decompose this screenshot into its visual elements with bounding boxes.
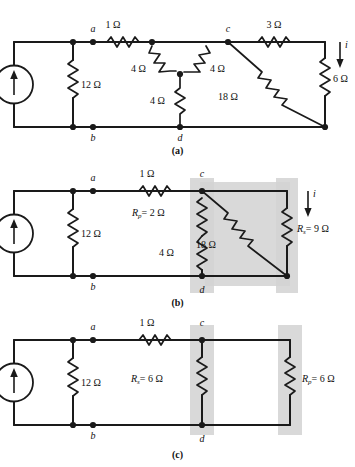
current-arrow-b-head — [304, 208, 311, 217]
resistor-a-4ohm-left — [149, 46, 176, 72]
node-dot-c-c — [199, 337, 205, 343]
node-dot-c-a — [90, 337, 96, 343]
junction-a-top-left — [70, 39, 76, 45]
label-b-1ohm: 1 Ω — [140, 168, 155, 179]
label-a-4ohm-right: 4 Ω — [210, 63, 225, 74]
current-label-b: i — [313, 188, 316, 199]
resistor-a-6ohm — [320, 58, 330, 96]
label-a-3ohm: 3 Ω — [267, 19, 282, 30]
circuit-b-svg: 4 A 12 Ω 1 Ω Rp= 2 Ω 4 Ω 18 Ω Rs= 9 Ω i … — [0, 158, 355, 313]
label-a-4ohm-left: 4 Ω — [131, 63, 146, 74]
node-dot-c — [225, 39, 231, 45]
resistor-a-18ohm — [228, 42, 325, 127]
junction-a-wye-center — [177, 71, 183, 77]
resistor-a-12ohm — [68, 60, 78, 98]
label-c-rp: Rp= 6 Ω — [301, 373, 335, 386]
circuit-c-svg: 4 A 12 Ω 1 Ω Rs= 6 Ω Rp= 6 Ω a b c d — [0, 312, 355, 462]
junction-c-top-left — [70, 337, 76, 343]
node-label-b-a: a — [91, 172, 96, 183]
junction-b-top-left — [70, 188, 76, 194]
node-label-c-c: c — [200, 317, 205, 328]
junction-b-bottom-right — [284, 273, 290, 279]
junction-c-bottom-left — [70, 422, 76, 428]
junction-a-wye-top — [149, 39, 155, 45]
current-label-a: i — [345, 39, 348, 50]
label-a-12ohm: 12 Ω — [81, 79, 101, 90]
node-label-b-b: b — [91, 281, 96, 292]
node-dot-d — [177, 124, 183, 130]
resistor-b-12ohm — [68, 209, 78, 247]
junction-a-bottom-right — [322, 124, 328, 130]
current-source-c-circle — [0, 364, 33, 402]
resistor-a-4ohm-right — [184, 46, 210, 72]
label-b-rp: Rp= 2 Ω — [131, 207, 165, 220]
label-b-18ohm: 18 Ω — [196, 239, 216, 250]
label-b-4ohm: 4 Ω — [159, 247, 174, 258]
junction-a-bottom-left — [70, 124, 76, 130]
node-dot-b-c — [199, 188, 205, 194]
node-dot-b-d — [199, 273, 205, 279]
circuit-panel-a: 4 A 12 Ω 1 Ω 3 Ω 4 Ω 4 Ω 4 Ω 18 Ω 6 Ω i … — [0, 0, 355, 160]
label-c-12ohm: 12 Ω — [81, 377, 101, 388]
resistor-a-4ohm-bottom — [175, 74, 185, 127]
label-c-1ohm: 1 Ω — [140, 317, 155, 328]
node-dot-c-b — [90, 422, 96, 428]
node-dot-b-b — [90, 273, 96, 279]
current-source-b-circle — [0, 215, 33, 253]
node-label-d: d — [178, 132, 184, 143]
node-label-b-c: c — [200, 168, 205, 179]
junction-b-bottom-left — [70, 273, 76, 279]
resistor-c-12ohm — [68, 358, 78, 396]
label-b-rs: Rs= 9 Ω — [296, 223, 329, 236]
circuit-panel-b: 4 A 12 Ω 1 Ω Rp= 2 Ω 4 Ω 18 Ω Rs= 9 Ω i … — [0, 158, 355, 313]
label-b-12ohm: 12 Ω — [81, 228, 101, 239]
node-dot-b-a — [90, 188, 96, 194]
node-dot-c-d — [199, 422, 205, 428]
label-a-6ohm: 6 Ω — [333, 73, 348, 84]
caption-a: (a) — [0, 145, 355, 156]
node-label-b: b — [91, 132, 96, 143]
node-dot-a — [90, 39, 96, 45]
circuit-a-svg: 4 A 12 Ω 1 Ω 3 Ω 4 Ω 4 Ω 4 Ω 18 Ω 6 Ω i … — [0, 0, 355, 160]
circuit-panel-c: 4 A 12 Ω 1 Ω Rs= 6 Ω Rp= 6 Ω a b c d — [0, 312, 355, 462]
label-a-4ohm-bottom: 4 Ω — [150, 95, 165, 106]
current-arrow-a-head — [336, 59, 343, 68]
node-label-c-b: b — [91, 430, 96, 441]
node-dot-b — [90, 124, 96, 130]
label-a-1ohm: 1 Ω — [106, 19, 121, 30]
caption-c: (c) — [0, 449, 355, 460]
node-label-c: c — [226, 23, 231, 34]
label-a-18ohm: 18 Ω — [218, 91, 238, 102]
label-c-rs: Rs= 6 Ω — [130, 373, 163, 386]
current-source-a-circle — [0, 66, 33, 104]
node-label-a: a — [91, 23, 96, 34]
caption-b: (b) — [0, 297, 355, 308]
node-label-c-a: a — [91, 321, 96, 332]
